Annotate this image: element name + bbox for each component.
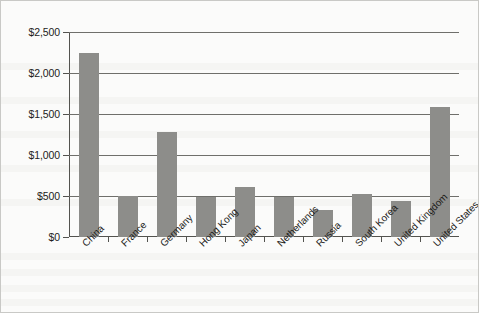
y-axis-tick-label: $1,500 [28,108,60,120]
y-axis-tick-label: $2,500 [28,26,60,38]
y-axis-tick-label: $500 [37,190,60,202]
chart-figure: $0$500$1,000$1,500$2,000$2,500 ChinaFran… [0,0,479,313]
y-axis-tick-label: $2,000 [28,67,60,79]
bar [79,53,99,238]
bar-series [69,32,459,237]
y-axis-tick [63,237,69,238]
x-axis-tick-labels: ChinaFranceGermanyHong KongJapanNetherla… [69,241,459,311]
bar [430,107,450,237]
bar [157,132,177,237]
y-axis-tick-label: $0 [49,231,60,243]
plot-area: $0$500$1,000$1,500$2,000$2,500 [69,32,459,237]
y-axis-tick-label: $1,000 [28,149,60,161]
